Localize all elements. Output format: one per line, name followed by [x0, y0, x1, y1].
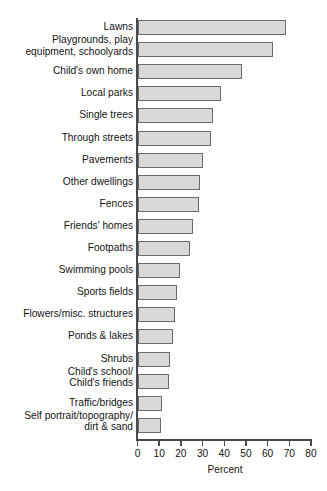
bar	[138, 285, 178, 300]
x-tick	[137, 439, 138, 446]
bar-category-label: Single trees	[1, 109, 133, 120]
bar	[138, 374, 169, 389]
bar	[138, 241, 191, 256]
bar-category-label: Swimming pools	[1, 264, 133, 275]
bar-category-label: Local parks	[1, 87, 133, 98]
x-tick	[245, 439, 246, 446]
bar-row: Sports fields	[0, 283, 327, 305]
bar-category-label: Lawns	[1, 21, 133, 32]
bar-row: Single trees	[0, 106, 327, 128]
bar-category-label: Through streets	[1, 132, 133, 143]
x-tick-label: 80	[298, 448, 324, 459]
bar-row: Pavements	[0, 151, 327, 173]
bar	[138, 307, 176, 322]
bar-category-label: Friends' homes	[1, 220, 133, 231]
bar-category-label: Traffic/bridges	[1, 397, 133, 408]
plot-area: LawnsPlaygrounds, play equipment, school…	[0, 0, 327, 440]
bar-category-label: Flowers/misc. structures	[1, 308, 133, 319]
bar-category-label: Footpaths	[1, 242, 133, 253]
bar-category-label: Child's own home	[1, 65, 133, 76]
bar-category-label: Shrubs	[1, 353, 133, 364]
bar-row: Flowers/misc. structures	[0, 305, 327, 327]
bar-row: Self portrait/topography/ dirt & sand	[0, 416, 327, 438]
x-axis-title: Percent	[137, 464, 313, 475]
bar-row: Through streets	[0, 129, 327, 151]
bar	[138, 42, 274, 57]
bar-row: Friends' homes	[0, 217, 327, 239]
bar-category-label: Self portrait/topography/ dirt & sand	[1, 410, 133, 433]
bar-row: Child's school/ Child's friends	[0, 372, 327, 394]
x-tick	[310, 439, 311, 446]
x-tick	[158, 439, 159, 446]
bar	[138, 131, 212, 146]
bar-category-label: Pavements	[1, 154, 133, 165]
bar	[138, 20, 287, 35]
bar-row: Local parks	[0, 84, 327, 106]
bar-row: Swimming pools	[0, 261, 327, 283]
bar-category-label: Fences	[1, 198, 133, 209]
bar	[138, 64, 242, 79]
bar-chart: LawnsPlaygrounds, play equipment, school…	[0, 0, 327, 491]
bar	[138, 86, 221, 101]
bar-category-label: Child's school/ Child's friends	[1, 366, 133, 389]
x-tick	[289, 439, 290, 446]
bar-category-label: Sports fields	[1, 286, 133, 297]
x-tick	[202, 439, 203, 446]
bar-row: Playgrounds, play equipment, schoolyards	[0, 40, 327, 62]
bar	[138, 175, 200, 190]
bar	[138, 418, 162, 433]
bar-row: Fences	[0, 195, 327, 217]
bar-row: Footpaths	[0, 239, 327, 261]
x-tick	[224, 439, 225, 446]
bar	[138, 329, 174, 344]
bar-category-label: Ponds & lakes	[1, 330, 133, 341]
bar	[138, 396, 163, 411]
bar-category-label: Other dwellings	[1, 176, 133, 187]
bar	[138, 219, 193, 234]
bar-row: Child's own home	[0, 62, 327, 84]
x-tick	[180, 439, 181, 446]
bar	[138, 197, 200, 212]
bar	[138, 263, 180, 278]
bar-row: Other dwellings	[0, 173, 327, 195]
bar	[138, 352, 170, 367]
bar-row: Ponds & lakes	[0, 327, 327, 349]
bar	[138, 108, 214, 123]
x-tick	[267, 439, 268, 446]
bar-category-label: Playgrounds, play equipment, schoolyards	[1, 34, 133, 57]
bar	[138, 153, 203, 168]
